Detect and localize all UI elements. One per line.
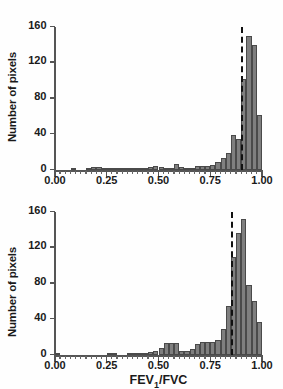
- histogram-panel-bottom: Number of pixels 04080120160 0.000.250.5…: [0, 195, 283, 389]
- histogram-bar: [55, 353, 60, 355]
- x-tick-minor: [137, 171, 138, 174]
- y-tick: 160: [50, 211, 56, 212]
- histogram-bar: [257, 115, 262, 170]
- y-tick: 40: [50, 318, 56, 319]
- plot-area-bottom: 04080120160 0.000.250.500.751.00: [55, 212, 262, 355]
- y-tick: 0: [50, 169, 56, 170]
- y-tick: 80: [50, 282, 56, 283]
- x-tick-minor: [91, 356, 92, 359]
- figure-two-panel-histogram: Number of pixels 04080120160 0.000.250.5…: [0, 0, 283, 389]
- x-tick-minor: [230, 356, 231, 359]
- y-tick-label: 80: [34, 90, 46, 102]
- x-tick-label: 0.00: [44, 359, 65, 371]
- x-tick-label: 0.25: [96, 174, 117, 186]
- histogram-bar: [112, 353, 117, 355]
- x-tick-minor: [235, 171, 236, 174]
- y-tick-label: 80: [34, 275, 46, 287]
- y-tick: 160: [50, 26, 56, 27]
- x-axis-title-main: FEV: [130, 373, 154, 387]
- histogram-bar: [257, 322, 262, 355]
- x-tick-minor: [75, 171, 76, 174]
- x-tick-minor: [184, 356, 185, 359]
- x-tick-label: 0.25: [96, 359, 117, 371]
- y-tick-label: 160: [28, 204, 46, 216]
- x-axis-title-tail: /FVC: [159, 373, 187, 387]
- x-tick-minor: [91, 171, 92, 174]
- x-tick-minor: [225, 171, 226, 174]
- x-tick-minor: [246, 171, 247, 174]
- x-tick-minor: [189, 356, 190, 359]
- x-tick-minor: [127, 356, 128, 359]
- x-tick-minor: [85, 356, 86, 359]
- x-tick-minor: [230, 171, 231, 174]
- y-tick-label: 120: [28, 239, 46, 251]
- x-tick-minor: [241, 356, 242, 359]
- x-tick-minor: [173, 171, 174, 174]
- x-tick-label: 1.00: [251, 174, 272, 186]
- x-tick-label: 0.75: [200, 174, 221, 186]
- y-axis-title-top: Number of pixels: [6, 22, 22, 172]
- y-tick: 120: [50, 61, 56, 62]
- x-tick-minor: [137, 356, 138, 359]
- x-tick-minor: [85, 171, 86, 174]
- x-tick-minor: [75, 356, 76, 359]
- x-tick-minor: [179, 356, 180, 359]
- y-tick-label: 0: [40, 162, 46, 174]
- threshold-dashed-line: [241, 27, 243, 170]
- x-tick-minor: [132, 356, 133, 359]
- x-tick-minor: [246, 356, 247, 359]
- x-tick-label: 0.50: [148, 359, 169, 371]
- x-tick-minor: [80, 171, 81, 174]
- x-tick-label: 0.50: [148, 174, 169, 186]
- x-tick-minor: [122, 171, 123, 174]
- x-tick-minor: [70, 171, 71, 174]
- x-tick-minor: [235, 356, 236, 359]
- y-tick: 80: [50, 97, 56, 98]
- x-tick-label: 0.75: [200, 359, 221, 371]
- x-tick-minor: [122, 356, 123, 359]
- y-axis-title-bottom: Number of pixels: [6, 217, 22, 367]
- y-tick-label: 0: [40, 347, 46, 359]
- x-tick-minor: [173, 356, 174, 359]
- x-tick-minor: [127, 171, 128, 174]
- histogram-panel-top: Number of pixels 04080120160 0.000.250.5…: [0, 0, 283, 195]
- x-tick-label: 0.00: [44, 174, 65, 186]
- x-tick-minor: [194, 171, 195, 174]
- x-tick-minor: [184, 171, 185, 174]
- x-tick-minor: [241, 171, 242, 174]
- x-tick-minor: [142, 356, 143, 359]
- x-tick-label: 1.00: [251, 359, 272, 371]
- y-tick-label: 40: [34, 126, 46, 138]
- y-tick: 40: [50, 133, 56, 134]
- threshold-dashed-line: [231, 212, 233, 355]
- x-tick-minor: [142, 171, 143, 174]
- x-tick-minor: [194, 356, 195, 359]
- bar-series-top: [55, 27, 262, 170]
- x-tick-minor: [179, 171, 180, 174]
- plot-area-top: 04080120160 0.000.250.500.751.00: [55, 27, 262, 170]
- x-tick-minor: [132, 171, 133, 174]
- x-tick-minor: [70, 356, 71, 359]
- x-tick-minor: [189, 171, 190, 174]
- y-tick-label: 120: [28, 54, 46, 66]
- y-tick-label: 160: [28, 19, 46, 31]
- histogram-bar: [71, 168, 76, 170]
- y-tick-label: 40: [34, 311, 46, 323]
- x-axis-title: FEV1/FVC: [55, 373, 262, 389]
- x-tick-minor: [80, 356, 81, 359]
- x-tick-minor: [225, 356, 226, 359]
- y-tick: 0: [50, 354, 56, 355]
- y-tick: 120: [50, 246, 56, 247]
